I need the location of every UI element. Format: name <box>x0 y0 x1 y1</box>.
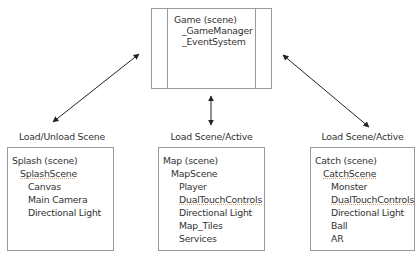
game-box-left-divider <box>167 9 168 88</box>
map-child: Player <box>163 180 262 193</box>
splash-child: Canvas <box>12 180 101 193</box>
connector-label-map: Load Scene/Active <box>158 131 265 142</box>
catch-child: Monster <box>315 180 414 193</box>
connector-label-splash: Load/Unload Scene <box>8 131 116 142</box>
game-child-gamemanager: _GameManager <box>174 25 253 36</box>
splash-scene-box: Splash (scene) SplashScene Canvas Main C… <box>7 147 114 251</box>
arrow-game-splash <box>53 54 139 122</box>
map-root-object: MapScene <box>163 167 262 180</box>
catch-child: Ball <box>315 219 414 232</box>
map-child: DualTouchControls <box>163 193 262 206</box>
map-scene-box: Map (scene) MapScene Player DualTouchCon… <box>158 147 265 251</box>
map-scene-title: Map (scene) <box>163 154 262 167</box>
catch-child: DualTouchControls <box>315 193 414 206</box>
game-scene-box: Game (scene) _GameManager _EventSystem <box>151 8 272 89</box>
catch-child: Directional Light <box>315 206 414 219</box>
game-scene-title: Game (scene) <box>174 14 253 25</box>
arrow-game-catch <box>283 55 369 127</box>
game-box-right-divider <box>255 9 256 88</box>
catch-scene-title: Catch (scene) <box>315 154 414 167</box>
splash-child: Main Camera <box>12 193 101 206</box>
catch-child: AR <box>315 232 414 245</box>
splash-scene-title: Splash (scene) <box>12 154 101 167</box>
map-child: Directional Light <box>163 206 262 219</box>
splash-child: Directional Light <box>12 206 101 219</box>
connector-label-catch: Load Scene/Active <box>310 131 415 142</box>
game-child-eventsystem: _EventSystem <box>174 36 253 47</box>
catch-root-object: CatchScene <box>315 167 414 180</box>
splash-root-object: SplashScene <box>12 167 101 180</box>
map-child: Services <box>163 232 262 245</box>
map-child: Map_Tiles <box>163 219 262 232</box>
catch-scene-box: Catch (scene) CatchScene Monster DualTou… <box>310 147 415 251</box>
